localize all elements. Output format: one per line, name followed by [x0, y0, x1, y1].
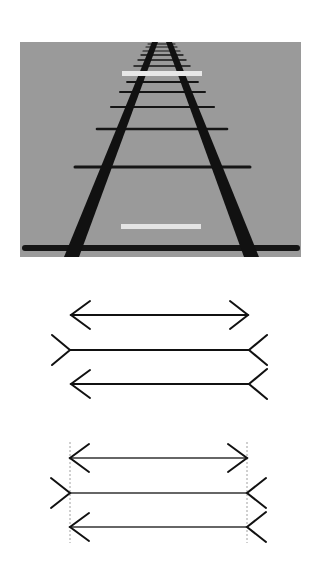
- guided-row-3-right-fin: [247, 512, 266, 542]
- row-inward-fins: [52, 335, 267, 365]
- muller-lyer-illusion: [0, 0, 309, 562]
- muller-lyer-set-plain: [52, 301, 267, 399]
- row-mixed: [71, 369, 267, 399]
- muller-lyer-set-guided: [51, 442, 266, 543]
- row-outward-arrows: [71, 301, 248, 329]
- guided-row-2-right-fin: [247, 478, 266, 508]
- guided-row-2-left-fin: [51, 478, 70, 508]
